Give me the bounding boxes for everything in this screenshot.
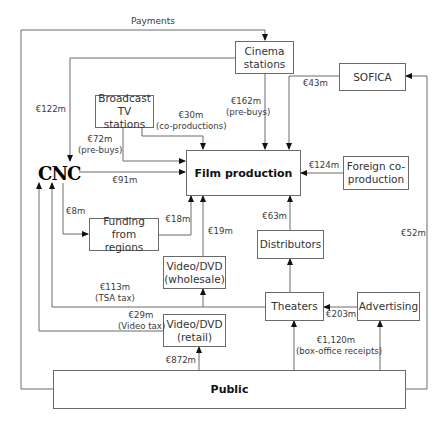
node-label-line: TV stations (96, 105, 153, 131)
node-public: Public (53, 370, 406, 409)
flow-value: €162m (226, 96, 266, 107)
node-label-line: stations (244, 58, 286, 71)
label-cnc-8: €8m (66, 206, 90, 217)
node-foreign-coproduction: Foreign co- production (343, 156, 409, 190)
node-label-line: (wholesale) (164, 273, 225, 286)
node-cinema-stations: Cinema stations (235, 41, 294, 74)
label-payments: Payments (128, 16, 178, 27)
node-label: Advertising (359, 300, 418, 313)
node-video-dvd-retail: Video/DVD (retail) (163, 314, 226, 347)
flow-note: (pre-buys) (226, 107, 266, 118)
node-label-line: production (348, 173, 404, 186)
node-label: Theaters (271, 300, 317, 313)
label-regions-18: €18m (164, 214, 192, 225)
flow-value: €72m (78, 134, 122, 145)
node-broadcast-tv-stations: Broadcast TV stations (95, 95, 154, 128)
flow-value: €1,120m (296, 335, 376, 346)
label-broadcast-30: €30m (co-productions) (156, 110, 226, 131)
node-distributors: Distributors (257, 230, 324, 259)
node-video-dvd-wholesale: Video/DVD (wholesale) (163, 256, 226, 289)
node-label: Distributors (260, 238, 321, 251)
label-public-52: €52m (401, 228, 431, 239)
node-label-line: (retail) (177, 331, 212, 344)
label-video-tax-29: €29m (Video tax) (118, 310, 164, 331)
label-cinema-162: €162m (pre-buys) (226, 96, 266, 117)
node-label: Film production (195, 167, 293, 180)
node-film-production: Film production (186, 150, 301, 196)
node-label-line: Foreign co- (347, 160, 405, 173)
flow-value: €30m (156, 110, 226, 121)
flow-note: (Video tax) (118, 321, 164, 332)
node-theaters: Theaters (265, 292, 324, 321)
node-label-line: Video/DVD (166, 260, 222, 273)
flow-value: €29m (118, 310, 164, 321)
label-tsa-113: €113m (TSA tax) (94, 282, 136, 303)
caption-cropped (30, 418, 420, 429)
node-advertising: Advertising (357, 292, 420, 321)
label-retail-872: €872m (160, 355, 196, 366)
node-label-line: Broadcast (98, 92, 151, 105)
label-wholesale-19: €19m (208, 226, 238, 237)
label-broadcast-72: €72m (pre-buys) (78, 134, 122, 155)
node-label-line: Funding from (90, 215, 158, 241)
label-sofica-43: €43m (303, 78, 333, 89)
label-foreign-124: €124m (307, 160, 341, 171)
flow-value: €113m (94, 282, 136, 293)
cnc-logo: CNC (38, 162, 78, 184)
node-label: SOFICA (353, 71, 392, 84)
node-label-line: regions (105, 241, 144, 254)
node-label: Public (211, 383, 249, 396)
flow-note: (pre-buys) (78, 145, 122, 156)
flow-note: (co-productions) (156, 121, 226, 132)
node-label-line: Video/DVD (166, 318, 222, 331)
label-boxoffice-1120: €1,120m (box-office receipts) (296, 335, 376, 356)
node-sofica: SOFICA (339, 63, 406, 91)
label-distributors-63: €63m (256, 211, 287, 222)
flow-note: (TSA tax) (94, 293, 136, 304)
label-cnc-122: €122m (28, 104, 66, 115)
node-funding-from-regions: Funding from regions (89, 218, 159, 251)
label-cnc-91: €91m (110, 175, 140, 186)
node-label-line: Cinema (244, 45, 284, 58)
label-advertising-203: €203m (326, 309, 360, 320)
flow-note: (box-office receipts) (296, 346, 376, 357)
